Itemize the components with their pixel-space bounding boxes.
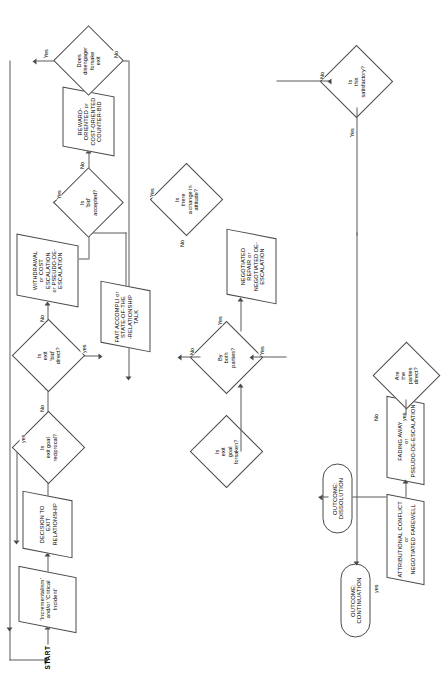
node-attributional-conflict[interactable]: ATTRIBUTIONAL CONFLICT or NEGOTIATED FAR… xyxy=(386,493,424,584)
rail-b9 xyxy=(356,107,357,235)
node-is-exit-goal-forsaken[interactable]: Is exit goal forsaken? xyxy=(189,414,263,488)
rail-b7 xyxy=(240,299,241,331)
edge-label-bidacc-yes: Yes xyxy=(55,189,61,199)
rail-b6 xyxy=(180,356,200,357)
node-is-exit-goal-reciprocal[interactable]: Is exit goal reciprocal? xyxy=(11,410,85,484)
arrow-b3 xyxy=(237,383,243,387)
edge-label-biddirect-no: No xyxy=(38,314,44,322)
edge-label-both-yes: Yes xyxy=(216,315,222,325)
node-withdrawal[interactable]: WITHDRAWAL or COST ESCALATION or PSEUDO-… xyxy=(16,233,78,307)
edge-fait-right xyxy=(125,232,126,287)
rail-b12 xyxy=(318,496,328,497)
edge-label-diseng-no: No xyxy=(112,50,118,58)
node-reward-oriented[interactable]: REWARD- ORIENTED or COST-ORIENTED COUNTE… xyxy=(62,86,114,156)
arrow-b8 xyxy=(327,78,331,84)
arrow-diseng-no xyxy=(125,376,131,380)
rail-top-1 xyxy=(9,60,10,660)
node-does-disengager-forsake-exit[interactable]: Does disengager forsake exit xyxy=(53,25,124,96)
node-is-bid-accepted[interactable]: Is 'bid' accepted? xyxy=(53,167,124,238)
edge-incident-decision xyxy=(47,554,48,572)
edge-reciprocal-yes-h xyxy=(16,445,17,540)
arrow-b6 xyxy=(177,354,181,360)
edge-label-reciprocal-yes: yes xyxy=(19,434,25,443)
rail-b10 xyxy=(356,232,357,562)
node-outcome-dissolution[interactable]: OUTCOME: DISSOLUTION xyxy=(322,463,352,533)
rail-b11 xyxy=(352,496,386,497)
edge-label-change-no: No xyxy=(178,239,184,247)
arrow-b5 xyxy=(249,354,253,360)
arrow-b7 xyxy=(237,297,243,301)
node-fait-accompli[interactable]: FAIT ACCOMPLI or STATE-OF-THE -RELATIONS… xyxy=(100,280,150,352)
edge-label-change-yes-2: Yes xyxy=(258,345,264,355)
edge-label-biddirect-yes: yes xyxy=(80,344,86,353)
node-outcome-continuation[interactable]: OUTCOME: CONTINUATION xyxy=(340,563,370,637)
start-label: START xyxy=(39,643,55,671)
edge-start-incident xyxy=(47,628,48,644)
edge-label-bidacc-no: No xyxy=(78,161,84,169)
edge-withdrawal-down xyxy=(78,258,88,259)
edge-label-diseng-yes: Yes xyxy=(42,48,48,58)
rail-b2 xyxy=(405,399,406,415)
edge-label-parties-no: No xyxy=(372,413,378,421)
rail-b3 xyxy=(240,385,241,451)
edge-label-both-no: No xyxy=(188,347,194,355)
arrow-reciprocal-yes xyxy=(13,540,19,544)
edge-label-reciprocal-no: No xyxy=(38,404,44,412)
node-is-exit-bid-direct[interactable]: Is exit 'bid' direct? xyxy=(11,318,85,392)
node-incident[interactable]: 'Incrementalism' and/or 'Critical Incide… xyxy=(18,565,76,632)
arrow-biddirect-yes xyxy=(98,353,102,359)
rail-b5 xyxy=(252,356,286,357)
node-decision-to-exit[interactable]: DECISION TO EXIT RELATIONSHIP xyxy=(22,490,72,558)
node-negotiated-repair[interactable]: NEGOTIATED REPAIR or NEGOTIATED DE- ESCA… xyxy=(226,228,276,304)
edge-label-satis-no: No xyxy=(318,71,324,79)
edge-label-satis-yes: Yes xyxy=(348,127,354,137)
arrow-b1 xyxy=(402,479,408,483)
edge-label-change-yes: Yes xyxy=(148,187,154,197)
edge-label-reciprocal-yes-2: yes xyxy=(372,584,378,593)
node-is-there-change-in-attitude[interactable]: Is there a change in attitude? xyxy=(149,162,223,236)
arrow-diseng-yes xyxy=(32,58,36,64)
arrow-rail-top-in xyxy=(6,627,12,631)
rail-b8 xyxy=(276,80,330,81)
